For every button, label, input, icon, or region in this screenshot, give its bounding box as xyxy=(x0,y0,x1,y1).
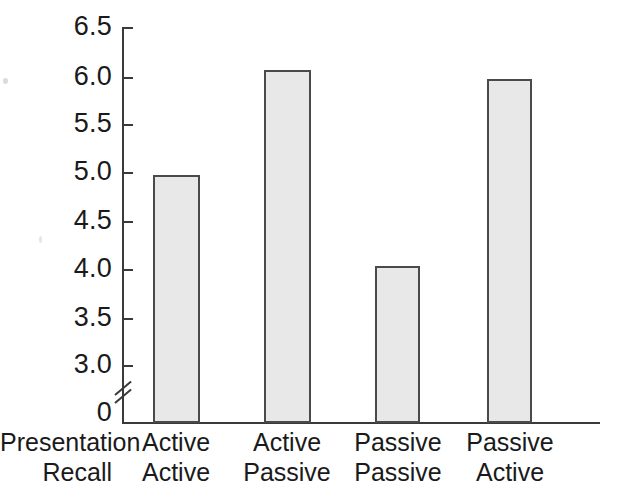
y-tick-mark xyxy=(122,27,133,29)
y-tick-mark xyxy=(122,269,133,271)
bar-active-active xyxy=(153,175,200,423)
x-label-presentation-1: Active xyxy=(121,430,231,455)
bar-passive-active xyxy=(487,79,532,423)
y-tick-label-5-5: 5.5 xyxy=(0,110,112,137)
x-label-presentation-3: Passive xyxy=(343,430,453,455)
bar-active-passive xyxy=(264,70,311,423)
y-tick-label-6-5: 6.5 xyxy=(0,13,112,40)
y-tick-mark xyxy=(122,365,133,367)
x-label-presentation-2: Active xyxy=(232,430,342,455)
scan-artifact xyxy=(39,236,42,243)
y-tick-label-0: 0 xyxy=(0,399,112,426)
x-label-recall-3: Passive xyxy=(343,460,453,484)
y-tick-mark xyxy=(122,221,133,223)
y-tick-mark xyxy=(122,318,133,320)
y-tick-mark xyxy=(122,124,133,126)
x-label-presentation-4: Passive xyxy=(455,430,565,455)
x-label-recall-4: Active xyxy=(455,460,565,484)
y-tick-label-4-5: 4.5 xyxy=(0,207,112,234)
y-tick-label-5-0: 5.0 xyxy=(0,158,112,185)
x-label-recall-1: Active xyxy=(121,460,231,484)
x-row-header-recall: Recall xyxy=(0,460,112,484)
axis-break-icon xyxy=(113,378,137,404)
bar-passive-passive xyxy=(375,266,420,423)
x-row-header-presentation: Presentation xyxy=(0,430,112,455)
x-label-recall-2: Passive xyxy=(232,460,342,484)
y-axis-line xyxy=(122,27,124,423)
bar-chart-figure: 6.5 6.0 5.5 5.0 4.5 4.0 3.5 3.0 0 Presen… xyxy=(0,0,621,484)
y-tick-mark xyxy=(122,77,133,79)
y-tick-label-3-0: 3.0 xyxy=(0,351,112,378)
y-tick-label-3-5: 3.5 xyxy=(0,304,112,331)
y-tick-mark xyxy=(122,172,133,174)
y-tick-label-4-0: 4.0 xyxy=(0,255,112,282)
y-tick-label-6-0: 6.0 xyxy=(0,63,112,90)
